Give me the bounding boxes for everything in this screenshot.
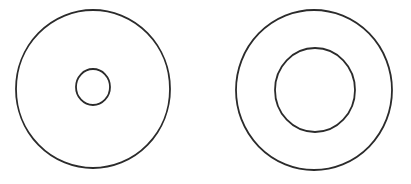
left-inner-circle (76, 69, 110, 105)
left-outer-circle (16, 10, 170, 168)
right-outer-circle (236, 10, 392, 170)
drawing-canvas (0, 0, 411, 184)
right-inner-circle (275, 48, 355, 132)
two-circles-figure (0, 0, 411, 184)
